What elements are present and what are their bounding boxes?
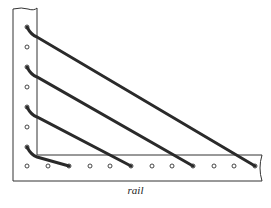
- hole: [46, 164, 50, 168]
- hole: [25, 125, 29, 129]
- hole: [108, 164, 112, 168]
- hole: [88, 164, 92, 168]
- rail-bar: [13, 155, 262, 181]
- rail-bracing-diagram: [0, 0, 271, 208]
- rail-label: rail: [0, 184, 271, 196]
- hole: [170, 164, 174, 168]
- hole: [150, 164, 154, 168]
- hole: [25, 45, 29, 49]
- struts: [27, 27, 255, 166]
- hole: [25, 164, 29, 168]
- hole: [212, 164, 216, 168]
- hole: [25, 85, 29, 89]
- strut: [27, 147, 69, 166]
- strut: [27, 27, 255, 166]
- hole: [232, 164, 236, 168]
